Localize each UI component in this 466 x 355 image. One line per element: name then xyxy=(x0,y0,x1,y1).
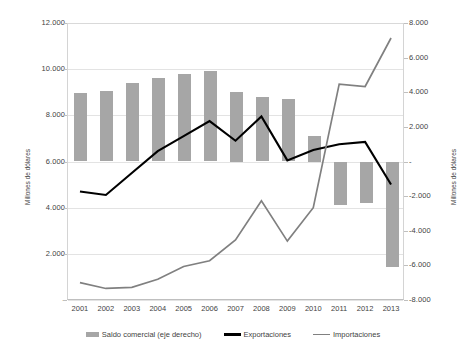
legend-item[interactable]: Exportaciones xyxy=(224,330,292,339)
y-tick-label-right: - xyxy=(409,157,457,166)
plot-area xyxy=(67,23,404,300)
legend-label: Importaciones xyxy=(333,330,380,339)
y-tick-mark-left xyxy=(63,115,67,116)
x-tick-label: 2013 xyxy=(371,304,411,313)
y-tick-mark-left xyxy=(63,208,67,209)
y-tick-label-right: -2.000 xyxy=(409,191,457,200)
legend-swatch-line-icon xyxy=(313,334,330,336)
legend-item[interactable]: Saldo comercial (eje derecho) xyxy=(86,330,202,339)
y-tick-mark-right xyxy=(404,58,408,59)
bar xyxy=(360,162,373,204)
y-tick-label-left: 8.000 xyxy=(17,110,65,119)
bar xyxy=(308,136,321,162)
bar xyxy=(334,162,347,205)
y-tick-label-left: 6.000 xyxy=(17,157,65,166)
gridline xyxy=(68,69,403,70)
gridline xyxy=(68,300,403,301)
y-tick-label-left: 4.000 xyxy=(17,203,65,212)
legend-item[interactable]: Importaciones xyxy=(313,330,380,339)
y-tick-label-left: 10.000 xyxy=(17,64,65,73)
legend-swatch-line-icon xyxy=(224,333,241,335)
gridline xyxy=(68,254,403,255)
bar xyxy=(126,83,139,162)
y-tick-mark-left xyxy=(63,254,67,255)
y-tick-mark-right xyxy=(404,300,408,301)
legend-swatch-bar-icon xyxy=(86,332,99,337)
y-tick-label-left: - xyxy=(17,295,65,304)
bar xyxy=(100,91,113,161)
bar xyxy=(256,97,269,161)
bar xyxy=(74,93,87,161)
bar xyxy=(230,92,243,161)
bar xyxy=(282,99,295,161)
gridline xyxy=(68,162,403,163)
y-tick-label-right: 4.000 xyxy=(409,87,457,96)
y-tick-mark-left xyxy=(63,23,67,24)
y-tick-mark-right xyxy=(404,23,408,24)
y-tick-mark-right xyxy=(404,196,408,197)
y-tick-label-left: 2.000 xyxy=(17,249,65,258)
legend-label: Exportaciones xyxy=(244,330,292,339)
bar xyxy=(152,78,165,161)
y-tick-mark-right xyxy=(404,162,408,163)
legend-label: Saldo comercial (eje derecho) xyxy=(102,330,202,339)
y-tick-label-right: 6.000 xyxy=(409,53,457,62)
y-tick-label-right: 2.000 xyxy=(409,122,457,131)
y-tick-label-right: 8.000 xyxy=(409,18,457,27)
chart-container: Millones de dólares Millones de dólares … xyxy=(0,0,466,355)
gridline xyxy=(68,23,403,24)
y-tick-label-right: -4.000 xyxy=(409,226,457,235)
y-tick-mark-right xyxy=(404,127,408,128)
y-tick-mark-right xyxy=(404,92,408,93)
y-tick-label-left: 12.000 xyxy=(17,18,65,27)
bar xyxy=(178,74,191,161)
gridline xyxy=(68,208,403,209)
y-tick-label-right: -6.000 xyxy=(409,260,457,269)
y-tick-label-right: -8.000 xyxy=(409,295,457,304)
y-tick-mark-left xyxy=(63,300,67,301)
y-tick-mark-right xyxy=(404,265,408,266)
y-tick-mark-left xyxy=(63,69,67,70)
chart-legend: Saldo comercial (eje derecho)Exportacion… xyxy=(0,330,466,339)
bar xyxy=(204,71,217,161)
y-tick-mark-left xyxy=(63,162,67,163)
y-tick-mark-right xyxy=(404,231,408,232)
bar xyxy=(386,162,399,268)
